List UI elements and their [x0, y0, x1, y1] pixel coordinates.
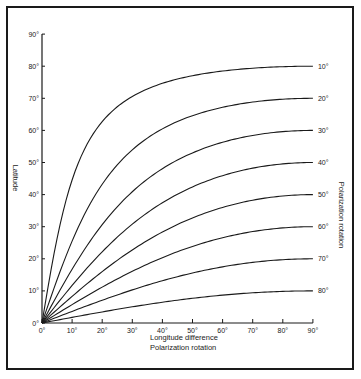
curve-label: 60°: [318, 223, 329, 230]
y-axis-title: Latitude: [11, 165, 20, 192]
y-tick-label: 80°: [28, 63, 39, 70]
x-tick-label: 0°: [39, 327, 46, 334]
y-tick-label: 90°: [28, 31, 39, 38]
curve-label: 50°: [318, 191, 329, 198]
x-tick-label: 30°: [127, 327, 138, 334]
right-axis-title: Polarization rotation: [337, 182, 346, 248]
curve-label: 20°: [318, 95, 329, 102]
chart-plot: 0°10°20°30°40°50°60°70°80°90°0°10°20°30°…: [0, 0, 361, 379]
curve-70: [42, 259, 313, 323]
labels: 10°20°30°40°50°60°70°80°: [318, 63, 329, 295]
curves: [42, 66, 313, 323]
curve-label: 10°: [318, 63, 329, 70]
y-tick-label: 20°: [28, 255, 39, 262]
y-tick-label: 70°: [28, 95, 39, 102]
y-tick-label: 50°: [28, 159, 39, 166]
y-tick-label: 30°: [28, 223, 39, 230]
x-tick-label: 80°: [278, 327, 289, 334]
y-tick-label: 0°: [32, 320, 39, 327]
x-tick-label: 20°: [97, 327, 108, 334]
curve-60: [42, 227, 313, 323]
curve-label: 30°: [318, 127, 329, 134]
x-tick-label: 60°: [217, 327, 228, 334]
curve-label: 70°: [318, 255, 329, 262]
curve-label: 40°: [318, 159, 329, 166]
curve-50: [42, 195, 313, 323]
x-tick-label: 10°: [67, 327, 78, 334]
x-tick-label: 90°: [308, 327, 319, 334]
curve-20: [42, 98, 313, 323]
curve-30: [42, 130, 313, 323]
y-tick-label: 60°: [28, 127, 39, 134]
curve-label: 80°: [318, 287, 329, 294]
x-axis-subtitle: Polarization rotation: [150, 343, 216, 352]
x-axis-title: Longitude difference: [150, 333, 218, 342]
y-tick-label: 10°: [28, 287, 39, 294]
y-tick-label: 40°: [28, 191, 39, 198]
x-tick-label: 70°: [247, 327, 258, 334]
